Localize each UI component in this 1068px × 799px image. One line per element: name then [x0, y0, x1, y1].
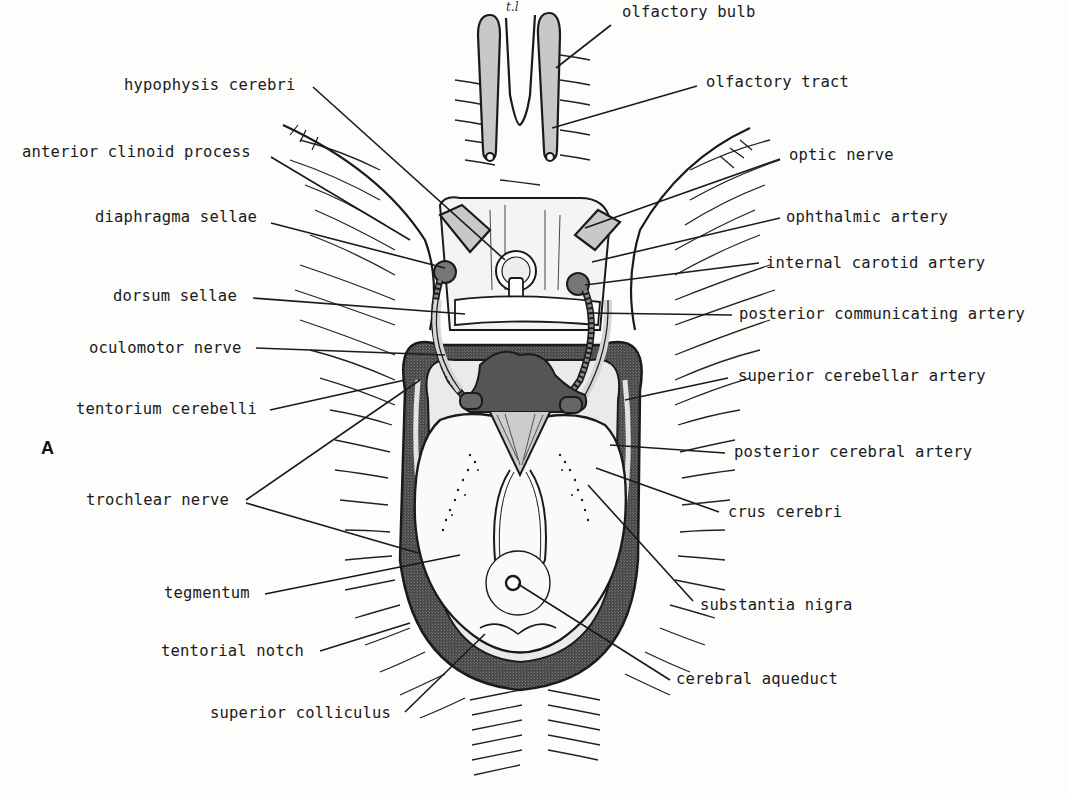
label-posterior-communicating-artery: posterior communicating artery [739, 305, 1025, 323]
label-superior-cerebellar-artery: superior cerebellar artery [738, 367, 986, 385]
label-internal-carotid-artery: internal carotid artery [766, 254, 985, 272]
handwritten-note: t.l [506, 0, 518, 14]
anatomy-figure: t.l A hypophysis cerebri anterior clinoi… [0, 0, 1068, 799]
label-substantia-nigra: substantia nigra [700, 596, 853, 614]
panel-letter: A [41, 438, 54, 459]
label-cerebral-aqueduct: cerebral aqueduct [676, 670, 838, 688]
label-posterior-cerebral-artery: posterior cerebral artery [734, 443, 972, 461]
label-oculomotor-nerve: oculomotor nerve [89, 339, 242, 357]
label-ophthalmic-artery: ophthalmic artery [786, 208, 948, 226]
label-olfactory-tract: olfactory tract [706, 73, 849, 91]
olfactory-bulbs [478, 13, 560, 161]
label-tegmentum: tegmentum [164, 584, 250, 602]
label-trochlear-nerve: trochlear nerve [86, 491, 229, 509]
label-crus-cerebri: crus cerebri [728, 503, 842, 521]
label-diaphragma-sellae: diaphragma sellae [95, 208, 257, 226]
clinoid-hatch-marks [290, 125, 752, 168]
label-tentorial-notch: tentorial notch [161, 642, 304, 660]
label-optic-nerve: optic nerve [789, 146, 894, 164]
label-superior-colliculus: superior colliculus [210, 704, 391, 722]
label-hypophysis-cerebri: hypophysis cerebri [124, 76, 296, 94]
label-tentorium-cerebelli: tentorium cerebelli [76, 400, 257, 418]
label-dorsum-sellae: dorsum sellae [113, 287, 237, 305]
label-anterior-clinoid-process: anterior clinoid process [22, 143, 251, 161]
label-olfactory-bulb: olfactory bulb [622, 3, 755, 21]
